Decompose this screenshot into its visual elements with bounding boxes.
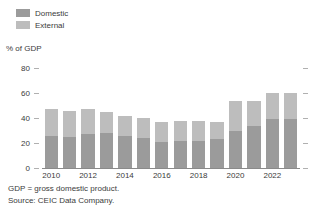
bar-segment-domestic-2012 [81, 134, 94, 168]
bar-segment-domestic-2020 [229, 131, 242, 169]
bar-segment-external-2023 [284, 93, 297, 119]
footnote-source: Source: CEIC Data Company. [8, 196, 119, 206]
plot-area: 020406080 2010201220142016201820202022 [0, 0, 320, 215]
bar-2012 [81, 109, 94, 168]
bar-2020 [229, 101, 242, 169]
y-tick-mark-right-0 [303, 168, 308, 169]
x-tick-label-2010: 2010 [42, 171, 60, 180]
bar-2019 [210, 122, 223, 168]
y-tick-mark-40 [34, 118, 39, 119]
x-tick-label-2018: 2018 [190, 171, 208, 180]
bar-2010 [45, 109, 58, 168]
bar-2021 [247, 101, 260, 169]
bar-segment-domestic-2014 [118, 136, 131, 169]
bar-segment-external-2017 [174, 121, 187, 141]
y-tick-mark-80 [34, 68, 39, 69]
x-tick-label-2014: 2014 [116, 171, 134, 180]
bar-segment-domestic-2017 [174, 141, 187, 169]
y-tick-label-0: 0 [10, 164, 30, 173]
bar-segment-domestic-2011 [63, 137, 76, 168]
x-tick-label-2020: 2020 [227, 171, 245, 180]
y-tick-label-20: 20 [10, 139, 30, 148]
bar-segment-external-2018 [192, 121, 205, 141]
x-tick-label-2012: 2012 [79, 171, 97, 180]
bar-2013 [100, 112, 113, 168]
bar-segment-domestic-2016 [155, 142, 168, 168]
bar-2014 [118, 116, 131, 169]
bar-segment-domestic-2015 [137, 138, 150, 168]
y-tick-label-40: 40 [10, 114, 30, 123]
bar-segment-domestic-2018 [192, 141, 205, 169]
y-tick-mark-right-20 [303, 143, 308, 144]
y-tick-mark-20 [34, 143, 39, 144]
y-tick-label-60: 60 [10, 89, 30, 98]
x-tick-label-2016: 2016 [153, 171, 171, 180]
bar-segment-domestic-2022 [266, 119, 279, 168]
bar-segment-domestic-2021 [247, 126, 260, 169]
bar-segment-external-2010 [45, 109, 58, 135]
bar-2022 [266, 93, 279, 168]
bar-segment-external-2022 [266, 93, 279, 119]
bar-segment-external-2021 [247, 101, 260, 126]
bar-segment-external-2014 [118, 116, 131, 136]
footnote-gdp-definition: GDP = gross domestic product. [8, 184, 119, 194]
y-tick-mark-right-80 [303, 68, 308, 69]
x-tick-label-2022: 2022 [263, 171, 281, 180]
bar-segment-domestic-2023 [284, 119, 297, 168]
bar-segment-domestic-2019 [210, 139, 223, 168]
bar-segment-external-2015 [137, 118, 150, 138]
chart-footnotes: GDP = gross domestic product. Source: CE… [8, 184, 119, 206]
bar-2017 [174, 121, 187, 169]
bar-segment-external-2012 [81, 109, 94, 134]
x-axis-line [42, 168, 300, 169]
bar-2015 [137, 118, 150, 168]
bar-segment-external-2013 [100, 112, 113, 133]
y-tick-mark-right-60 [303, 93, 308, 94]
bar-segment-domestic-2010 [45, 136, 58, 169]
bars-layer [0, 0, 320, 215]
bar-2023 [284, 93, 297, 168]
bar-segment-external-2011 [63, 111, 76, 137]
bar-2011 [63, 111, 76, 169]
bar-segment-external-2019 [210, 122, 223, 140]
chart-page: Domestic External % of GDP 020406080 201… [0, 0, 320, 215]
y-tick-mark-60 [34, 93, 39, 94]
bar-2018 [192, 121, 205, 169]
bar-segment-domestic-2013 [100, 133, 113, 168]
bar-2016 [155, 122, 168, 168]
y-tick-mark-right-40 [303, 118, 308, 119]
bar-segment-external-2016 [155, 122, 168, 142]
y-tick-label-80: 80 [10, 64, 30, 73]
y-tick-mark-0 [34, 168, 39, 169]
bar-segment-external-2020 [229, 101, 242, 131]
